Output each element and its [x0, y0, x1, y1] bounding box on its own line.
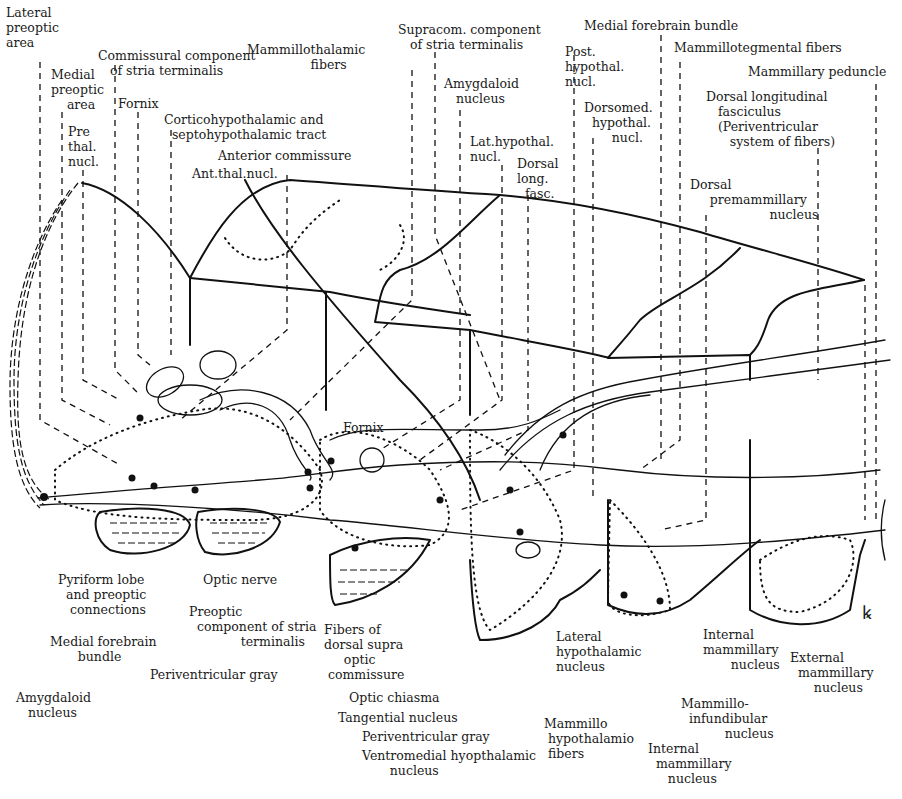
stippled-regions [55, 408, 853, 630]
label-dorsomed-hypothal-nucl: Dorsomed. hypothal. nucl. [584, 100, 653, 145]
label-internal-mammillary-nucleus-upper: Internal mammillary nucleus [703, 627, 780, 672]
label-post-hypothal-nucl: Post. hypothal. nucl. [565, 44, 624, 89]
label-anterior-commissure: Anterior commissure [218, 148, 351, 163]
label-mammillo-infundibular-nucleus: Mammillo- infundibular nucleus [681, 696, 774, 741]
label-fibers-dorsal-supraoptic: Fibers of dorsal supra optic commissure [324, 622, 404, 682]
label-dorsal-long-fasc: Dorsal long. fasc. [517, 156, 558, 201]
label-preoptic-component-stria: Preoptic component of stria terminalis [189, 604, 316, 649]
label-pre-thal-nucl: Pre thal. nucl. [68, 124, 99, 169]
label-corticohypothalamic-tract: Corticohypothalamic and septohypothalami… [164, 112, 326, 142]
label-dorsal-premammillary-nucleus: Dorsal premammillary nucleus [690, 177, 818, 222]
nuclei-ellipses [141, 351, 540, 558]
artist-signature: ꝃ [862, 605, 872, 620]
label-pyriform-lobe: Pyriform lobe and preoptic connections [58, 572, 146, 617]
label-internal-mammillary-nucleus-lower: Internal mammillary nucleus [648, 741, 731, 786]
label-medial-forebrain-bundle-top: Medial forebrain bundle [584, 18, 738, 33]
label-medial-preoptic-area: Medial preoptic area [51, 67, 104, 112]
label-lateral-hypothalamic-nucleus: Lateral hypothalamic nucleus [556, 629, 641, 674]
label-amygdaloid-nucleus-top: Amygdaloid nucleus [444, 76, 519, 106]
label-supracom-component-stria: Supracom. component of stria terminalis [398, 22, 541, 52]
label-periventricular-gray-center: Periventricular gray [362, 729, 490, 744]
label-fornix-mid: Fornix [343, 420, 384, 435]
label-ventromedial-hypothalamic-nucleus: Ventromedial hyopthalamic nucleus [362, 748, 536, 778]
fiber-tracts [38, 340, 890, 546]
label-commissural-component-stria: Commissural component of stria terminali… [98, 48, 256, 78]
label-tangential-nucleus: Tangential nucleus [338, 710, 458, 725]
label-medial-forebrain-bundle-bottom: Medial forebrain bundle [50, 634, 157, 664]
label-fornix-top: Fornix [118, 96, 159, 111]
label-lateral-preoptic-area: Lateral preoptic area [6, 5, 59, 50]
label-amygdaloid-nucleus-bottom: Amygdaloid nucleus [16, 690, 91, 720]
label-optic-nerve: Optic nerve [203, 572, 277, 587]
label-optic-chiasma: Optic chiasma [349, 690, 439, 705]
hatched-cortex-band [10, 183, 78, 508]
label-mammillary-peduncle: Mammillary peduncle [748, 64, 886, 79]
label-dorsal-longitudinal-fasciculus: Dorsal longitudinal fasciculus (Perivent… [706, 89, 835, 149]
outline-solid [82, 180, 864, 500]
label-periventricular-gray-left: Periventricular gray [150, 667, 278, 682]
label-mammillothalamic-fibers: Mammillothalamic fibers [247, 42, 365, 72]
label-mammillo-hypothalamio-fibers: Mammillo hypothalamio fibers [544, 716, 634, 761]
label-mammillotegmental-fibers: Mammillotegmental fibers [674, 40, 842, 55]
label-external-mammillary-nucleus: External mammillary nucleus [790, 650, 873, 695]
label-ant-thal-nucl: Ant.thal.nucl. [192, 166, 278, 181]
